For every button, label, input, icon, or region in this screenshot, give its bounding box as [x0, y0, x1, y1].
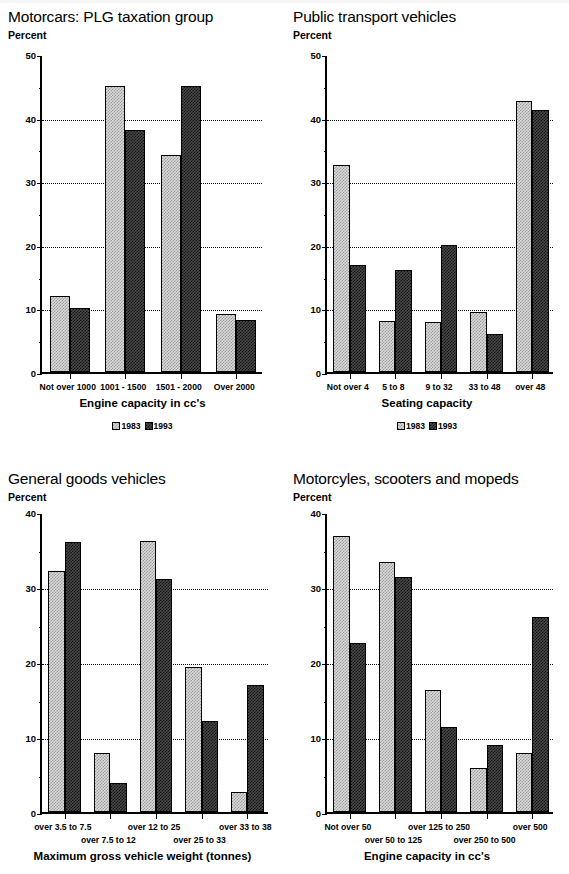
y-axis-tick	[322, 374, 327, 375]
bar-1993-over-500	[532, 617, 548, 812]
y-axis-minor-tick	[324, 215, 327, 216]
x-axis-category-label: over 33 to 38	[190, 823, 300, 832]
x-axis-title: Maximum gross vehicle weight (tonnes)	[0, 851, 285, 863]
y-axis-minor-tick	[324, 777, 327, 778]
y-axis-tick-label: 30	[310, 178, 321, 188]
x-axis-tick	[350, 814, 351, 819]
y-axis-tick-label: 40	[25, 509, 36, 519]
y-axis-tick	[37, 247, 42, 248]
y-axis-tick	[322, 664, 327, 665]
y-axis-tick-label: 30	[310, 584, 321, 594]
y-axis-tick-label: 10	[25, 734, 36, 744]
y-axis-minor-tick	[39, 88, 42, 89]
y-axis-unit-label: Percent	[293, 29, 332, 41]
y-axis-minor-tick	[324, 702, 327, 703]
chart-legend: 19831993	[0, 421, 285, 431]
bar-1983-1001-1500	[105, 86, 125, 372]
x-axis-tick	[487, 814, 488, 819]
y-axis-tick	[37, 120, 42, 121]
x-axis-tick	[156, 814, 157, 819]
y-axis-tick-label: 0	[31, 369, 36, 379]
chart-title: General goods vehicles	[8, 470, 166, 488]
y-axis-tick-label: 40	[310, 509, 321, 519]
bar-1993-over-48	[532, 110, 548, 372]
x-axis-tick	[181, 374, 182, 379]
bar-1993-over-250-to-500	[487, 745, 503, 812]
bar-1983-9-to-32	[425, 322, 441, 372]
y-axis-tick	[37, 814, 42, 815]
bar-1993-over-25-to-33	[202, 721, 218, 813]
gridline	[42, 183, 262, 184]
y-axis-tick	[322, 247, 327, 248]
x-axis-title: Engine capacity in cc's	[285, 851, 569, 863]
x-axis-category-label: over 500	[475, 823, 569, 832]
x-axis-tick	[532, 814, 533, 819]
chart-legend: 19831993	[285, 421, 569, 431]
legend-item-1993: 1993	[145, 421, 173, 431]
x-axis-tick	[487, 374, 488, 379]
legend-item-1983: 1983	[397, 421, 425, 431]
plot-area: 01020304050	[325, 56, 553, 374]
legend-swatch-1983	[397, 422, 405, 430]
x-axis-tick	[110, 814, 111, 819]
y-axis-tick	[37, 514, 42, 515]
y-axis-minor-tick	[39, 777, 42, 778]
bar-1993-33-to-48	[487, 334, 503, 372]
y-axis-tick	[322, 739, 327, 740]
bar-1993-over-12-to-25	[156, 579, 172, 812]
bar-1983-not-over-1000	[50, 296, 70, 372]
y-axis-tick-label: 20	[25, 659, 36, 669]
x-axis-tick	[247, 814, 248, 819]
y-axis-tick	[322, 814, 327, 815]
chart-panel-4: Motorcyles, scooters and mopedsPercent01…	[285, 470, 569, 874]
gridline	[42, 120, 262, 121]
gridline	[42, 247, 262, 248]
x-axis-category-label: Over 2000	[179, 383, 289, 392]
x-axis-tick	[236, 374, 237, 379]
bar-1993-9-to-32	[441, 245, 457, 372]
y-axis-minor-tick	[39, 627, 42, 628]
bar-1993-over-50-to-125	[395, 577, 411, 813]
y-axis-minor-tick	[324, 342, 327, 343]
x-axis-tick	[125, 374, 126, 379]
bar-1993-over-33-to-38	[247, 685, 263, 813]
y-axis-minor-tick	[39, 279, 42, 280]
y-axis-tick-label: 40	[310, 115, 321, 125]
bar-1983-over-33-to-38	[231, 792, 247, 812]
y-axis-minor-tick	[39, 215, 42, 216]
chart-panel-1: Motorcars: PLG taxation groupPercent0102…	[0, 8, 285, 440]
bar-1993-over-125-to-250	[441, 727, 457, 812]
plot-area: 010203040	[40, 514, 268, 814]
plot-area: 010203040	[325, 514, 553, 814]
y-axis-tick	[322, 589, 327, 590]
bar-1993-over-7-5-to-12	[110, 783, 126, 812]
y-axis-minor-tick	[324, 279, 327, 280]
y-axis-tick	[322, 56, 327, 57]
bar-1993-not-over-50	[350, 643, 366, 812]
bar-1983-not-over-50	[333, 536, 349, 812]
y-axis-minor-tick	[39, 552, 42, 553]
y-axis-minor-tick	[324, 151, 327, 152]
legend-swatch-1993	[145, 422, 153, 430]
legend-item-1993: 1993	[429, 421, 457, 431]
bar-1993-5-to-8	[395, 270, 411, 372]
x-axis-title: Seating capacity	[285, 398, 569, 410]
legend-item-1983: 1983	[112, 421, 140, 431]
chart-title: Public transport vehicles	[293, 8, 456, 26]
bar-1983-over-2000	[216, 314, 236, 373]
y-axis-tick-label: 20	[310, 242, 321, 252]
y-axis-tick	[37, 56, 42, 57]
chart-panel-2: Public transport vehiclesPercent01020304…	[285, 8, 569, 440]
y-axis-tick	[322, 310, 327, 311]
legend-swatch-1993	[429, 422, 437, 430]
y-axis-minor-tick	[324, 88, 327, 89]
bar-1993-not-over-4	[350, 265, 366, 372]
y-axis-tick	[322, 120, 327, 121]
y-axis-minor-tick	[39, 151, 42, 152]
x-axis-tick	[532, 374, 533, 379]
y-axis-minor-tick	[324, 627, 327, 628]
y-axis-tick-label: 0	[316, 809, 321, 819]
bar-1983-5-to-8	[379, 321, 395, 372]
y-axis-tick-label: 20	[25, 242, 36, 252]
y-axis-tick-label: 10	[310, 305, 321, 315]
